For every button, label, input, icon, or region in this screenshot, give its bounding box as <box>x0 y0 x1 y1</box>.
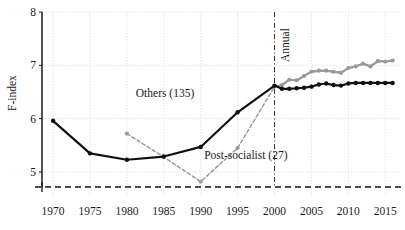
horizontal-gridlines <box>42 12 400 172</box>
x-tick-2000: 2000 <box>263 205 286 217</box>
x-tick-1990: 1990 <box>189 205 212 217</box>
chart-plot-area <box>0 0 405 230</box>
x-tick-1970: 1970 <box>42 205 65 217</box>
x-tick-2005: 2005 <box>300 205 323 217</box>
x-tick-1975: 1975 <box>78 205 101 217</box>
annual-divider-label: Annual <box>279 28 291 62</box>
y-axis-title: F-index <box>6 75 18 111</box>
x-tick-1985: 1985 <box>152 205 175 217</box>
x-tick-1995: 1995 <box>226 205 249 217</box>
chart-figure: F-index 5678 197019751980198519901995200… <box>0 0 405 230</box>
vertical-gridlines <box>53 12 385 196</box>
data-series-lines <box>51 58 395 183</box>
x-tick-2010: 2010 <box>337 205 360 217</box>
y-axis-line <box>39 12 42 187</box>
y-tick-5: 5 <box>16 166 36 178</box>
x-tick-2015: 2015 <box>374 205 397 217</box>
y-tick-6: 6 <box>16 113 36 125</box>
x-tick-1980: 1980 <box>115 205 138 217</box>
y-tick-8: 8 <box>16 6 36 18</box>
series-label-others: Others (135) <box>136 87 194 99</box>
y-tick-7: 7 <box>16 59 36 71</box>
series-label-post-socialist: Post-socialist (27) <box>204 149 287 161</box>
